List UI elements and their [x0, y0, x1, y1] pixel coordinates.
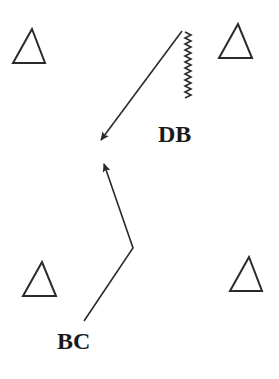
bc-label: BC [57, 329, 90, 353]
defender-triangle-icon [13, 29, 45, 63]
defender-triangle-icon [230, 257, 262, 291]
defender-triangle-icon [23, 262, 56, 296]
db-backpedal-zigzag [185, 32, 191, 98]
play-diagram-canvas [0, 0, 279, 379]
bc-route-arrow [84, 164, 133, 321]
db-label: DB [158, 122, 191, 146]
defender-triangle-icon [219, 24, 252, 58]
